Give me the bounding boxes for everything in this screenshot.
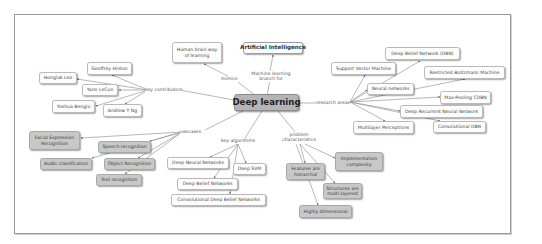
node-yoshua-bengio[interactable]: Yoshua Bengio <box>52 100 95 113</box>
link-label-research-areas: research areas <box>316 100 350 105</box>
link-label-problem-characteristics: problem characteristics <box>280 132 318 143</box>
node-deep-neural-networks[interactable]: Deep Neural Networks <box>167 157 229 169</box>
node-features-are-hierarchal[interactable]: Features are hierarchal <box>286 163 325 180</box>
node-geoffrey-hinton[interactable]: Geoffrey Hinton <box>87 62 132 75</box>
node-multilayer-perceptrons[interactable]: Multilayer Perceptrons <box>353 121 414 134</box>
link-label-key-algorithms: key algorithms <box>221 138 255 143</box>
edge-mimics-to-human-brain <box>204 64 228 76</box>
edge-ml-label-to-ai <box>270 55 273 71</box>
node-human-brain-way-of-learning[interactable]: Human brain way of learning <box>172 42 222 63</box>
edge-problem-characteristic-1 <box>305 144 335 158</box>
node-support-vector-machine[interactable]: Support Vector Machine <box>331 62 396 75</box>
node-honglak-lee[interactable]: Honglak Lee <box>39 72 77 84</box>
link-label-key-contributors: key contributors <box>145 87 182 92</box>
edge-key-algorithm-1 <box>238 144 246 163</box>
node-max-pooling-cdbn[interactable]: Max-Pooling CDBN <box>440 91 491 104</box>
edge-usecase-0 <box>81 132 182 138</box>
node-deep-recurrent-neural-network[interactable]: Deep Recurrent Neural Network <box>400 105 483 118</box>
node-restricted-boltzmann-machine[interactable]: Restricted Boltzmann Machine <box>424 66 505 79</box>
node-convolutional-dbn[interactable]: Convolutional DBN <box>433 121 486 133</box>
link-label-machine-learning-branch-for: Machine learning branch for <box>249 71 293 82</box>
edge-central-to-key-algorithms <box>245 111 262 138</box>
central-node[interactable]: Deep learning <box>234 94 299 111</box>
node-neural-networks[interactable]: Neural networks <box>367 83 414 95</box>
node-deep-belief-network-dbn[interactable]: Deep Belief Network (DBN) <box>385 47 460 60</box>
node-artificial-intelligence[interactable]: Artificial Intelligence <box>243 42 303 54</box>
node-object-recognition[interactable]: Object Recognition <box>104 158 155 170</box>
link-label-usecases: usecases <box>180 129 201 134</box>
edge-central-to-problem-characteristics <box>278 111 295 132</box>
node-text-recognition[interactable]: Text recognition <box>96 174 142 186</box>
node-implementation-complexity[interactable]: Implementation complexity <box>335 152 383 171</box>
node-audio-classification[interactable]: Audio classification <box>40 158 92 170</box>
node-yann-lecun[interactable]: Yann LeCun <box>82 84 118 96</box>
node-highly-dimensional[interactable]: Highly dimensional <box>299 205 352 218</box>
node-structures-are-multi-layered[interactable]: Structures are multi-layered <box>323 183 362 199</box>
node-speech-recognition[interactable]: Speech recognition <box>98 141 151 153</box>
node-andrew-y-ng[interactable]: Andrew Y Ng <box>103 104 142 117</box>
node-deep-svm[interactable]: Deep SVM <box>233 163 266 175</box>
node-facial-expression-recognition[interactable]: Facial Expression Recognition <box>29 131 80 150</box>
edge-central-to-key-contributors <box>180 90 234 100</box>
node-convolutional-deep-belief-networks[interactable]: Convolutional Deep Belief Networks <box>171 194 266 206</box>
node-deep-belief-networks[interactable]: Deep Belief Networks <box>177 178 238 190</box>
edge-central-to-usecases <box>205 110 245 130</box>
link-label-mimics: mimics <box>221 76 237 81</box>
